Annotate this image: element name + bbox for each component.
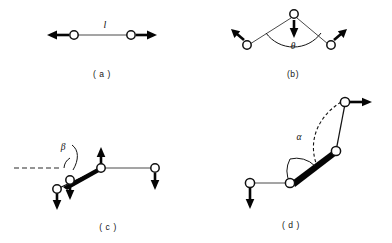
arrow-b-apex-down	[290, 20, 299, 38]
atom-c-lower-left	[53, 185, 61, 193]
panel-d: α ( d )	[245, 97, 372, 230]
arrow-a-left	[47, 31, 69, 40]
angle-arc-beta	[64, 158, 70, 168]
panel-c: β ( c )	[14, 142, 159, 232]
figure-root: l ( a )	[0, 0, 392, 243]
arrow-a-right	[136, 31, 157, 40]
wedge-bond-d	[292, 148, 338, 187]
atom-b-right	[327, 41, 335, 49]
caption-panel-a: ( a )	[93, 69, 111, 79]
arrow-c-right-down	[151, 173, 160, 190]
atom-d-left	[245, 178, 254, 187]
atom-c-pivot	[97, 164, 105, 172]
caption-panel-c: ( c )	[99, 222, 117, 232]
bond-d-upper	[336, 104, 345, 151]
atom-c-right	[151, 164, 159, 172]
angle-leader-beta	[72, 145, 77, 170]
atom-d-wedge-end	[331, 146, 340, 155]
angle-arc-alpha	[290, 158, 315, 166]
arrow-b-left-out	[231, 29, 244, 40]
symbol-bond-length-l: l	[104, 19, 107, 30]
arrow-d-left-down	[246, 188, 255, 209]
arrow-c-lower-down	[53, 192, 62, 210]
panel-b: θ (b)	[231, 10, 347, 79]
bond-b-right	[297, 18, 328, 44]
symbol-angle-alpha: α	[297, 132, 303, 142]
atom-b-apex	[290, 10, 298, 18]
arrow-b-right-out	[334, 29, 347, 40]
atom-d-top	[340, 97, 349, 106]
atom-c-mid	[66, 176, 74, 184]
symbol-angle-theta: θ	[291, 41, 296, 51]
atom-b-left	[243, 41, 251, 49]
symbol-angle-beta: β	[60, 142, 66, 152]
caption-panel-d: ( d )	[282, 220, 300, 230]
panel-a: l ( a )	[47, 19, 157, 79]
diagram-canvas: l ( a )	[0, 0, 392, 243]
bond-b-left	[250, 18, 291, 44]
atom-a-left	[70, 31, 78, 39]
atom-d-center	[285, 178, 294, 187]
arrow-d-top-right	[350, 98, 372, 107]
caption-panel-b: (b)	[287, 69, 299, 79]
atom-a-right	[127, 31, 135, 39]
